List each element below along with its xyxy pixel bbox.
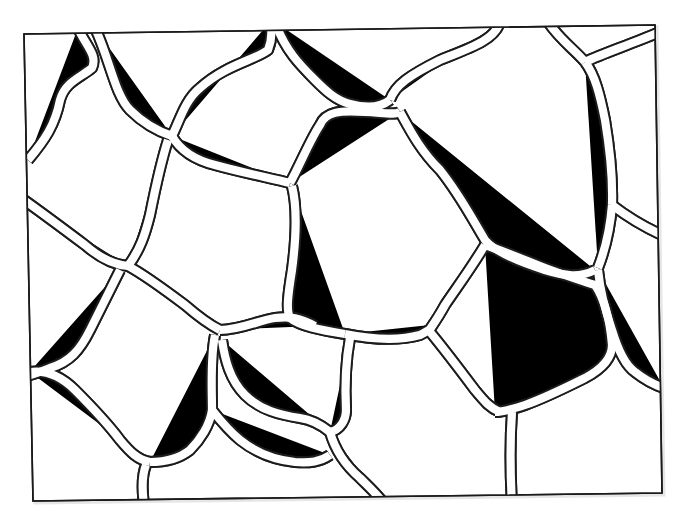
cell-network-diagram <box>0 0 687 520</box>
